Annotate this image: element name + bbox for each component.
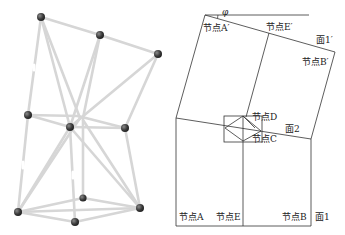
node-b-label: 节点B: [282, 212, 307, 222]
face-2-label: 面2: [285, 124, 300, 134]
truss-node: [96, 31, 104, 39]
truss-model: [14, 13, 162, 226]
figure-canvas: [0, 0, 345, 235]
truss-node: [121, 124, 129, 132]
truss-node: [71, 218, 79, 226]
truss-node: [24, 111, 32, 119]
face-1-prime-left-edge: [176, 15, 205, 118]
figure: φ 节点A′ 节点E′ 面1′ 节点B′ 节点D 面2 节点C 节点A 节点E …: [0, 0, 345, 235]
truss-node: [14, 208, 22, 216]
face-1-prime-top-edge: [205, 15, 335, 52]
node-c-label: 节点C: [252, 134, 277, 144]
node-e-prime-label: 节点E′: [266, 22, 293, 32]
node-a-prime-label: 节点A′: [203, 23, 230, 33]
truss-node: [136, 204, 144, 212]
truss-node: [154, 50, 162, 58]
node-a-label: 节点A: [179, 212, 204, 222]
node-b-prime-label: 节点B′: [302, 57, 329, 67]
truss-node: [79, 194, 86, 201]
face-1-prime-label: 面1′: [316, 35, 333, 45]
angle-phi-label: φ: [222, 7, 228, 17]
node-d-label: 节点D: [252, 112, 277, 122]
face-1-label: 面1: [315, 212, 330, 222]
truss-node: [66, 123, 74, 131]
node-e-prime-line: [246, 33, 269, 117]
node-e-label: 节点E: [216, 212, 241, 222]
truss-node: [37, 13, 45, 21]
